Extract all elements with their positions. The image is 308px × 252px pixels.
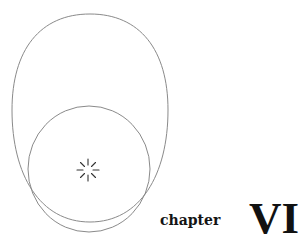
starburst-icon (77, 159, 99, 181)
chapter-label: chapter (160, 213, 220, 227)
chapter-number: VI (249, 196, 299, 241)
circle-outline (28, 106, 150, 232)
chapter-opener-page: chapter VI (0, 0, 308, 252)
oval-outline (12, 14, 168, 222)
